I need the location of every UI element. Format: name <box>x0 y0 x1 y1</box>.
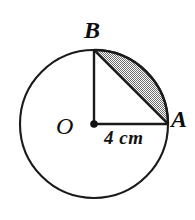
vertex-label-a: A <box>171 107 187 131</box>
center-point-dot <box>90 120 98 128</box>
radius-measure-label: 4 cm <box>104 127 143 149</box>
vertex-label-o: O <box>56 114 73 138</box>
vertex-label-b: B <box>84 18 100 42</box>
geometry-figure: B A O 4 cm <box>0 0 195 220</box>
